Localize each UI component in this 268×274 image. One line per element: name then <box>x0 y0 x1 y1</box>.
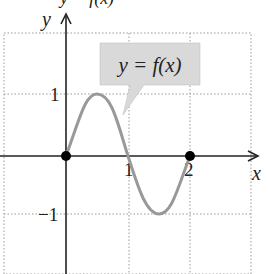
callout-text: y = f(x) <box>116 53 181 77</box>
callout: y = f(x) <box>100 43 200 115</box>
tick-y-1: 1 <box>50 84 60 105</box>
header-text-cutoff: y = f(x) <box>58 0 114 9</box>
function-graph: y = f(x) y x 1 −1 1 2 y = f(x) <box>0 0 268 274</box>
x-axis-label: x <box>251 162 261 184</box>
tick-y-neg1: −1 <box>38 204 58 225</box>
point-x2 <box>185 151 195 161</box>
function-curve <box>66 94 190 214</box>
y-axis-label: y <box>40 8 51 31</box>
origin-point <box>61 151 71 161</box>
